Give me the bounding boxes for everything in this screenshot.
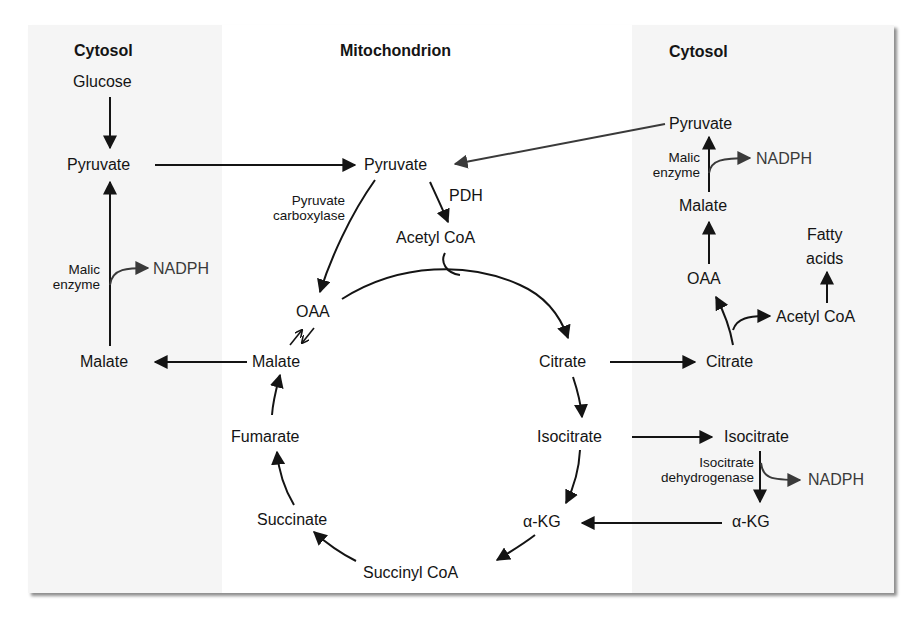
enzyme-label-line2: enzyme bbox=[36, 277, 100, 292]
arrow-isocitrate-akg bbox=[566, 450, 580, 503]
arrow-malic-enzyme-nadph-right bbox=[709, 158, 750, 173]
header-cytosol-right: Cytosol bbox=[669, 43, 728, 61]
fatty-acids-line1: Fatty bbox=[806, 223, 843, 247]
product-nadph-right-top: NADPH bbox=[756, 150, 812, 168]
metabolite-fumarate: Fumarate bbox=[231, 428, 299, 446]
metabolite-alpha-kg-cytosol: α-KG bbox=[732, 513, 770, 531]
metabolite-oaa-cytosol-right: OAA bbox=[687, 270, 721, 288]
arrow-akg-succinylcoa bbox=[497, 535, 535, 560]
metabolite-malate-cytosol-left: Malate bbox=[80, 353, 128, 371]
arrow-pdh bbox=[430, 182, 448, 222]
header-mitochondrion: Mitochondrion bbox=[340, 42, 451, 60]
metabolite-oaa-mito: OAA bbox=[296, 303, 330, 321]
arrow-fumarate-malate bbox=[272, 375, 280, 415]
arc-oaa-citrate bbox=[342, 269, 568, 338]
metabolite-isocitrate-cytosol: Isocitrate bbox=[724, 428, 789, 446]
arrow-citrate-oaa bbox=[716, 297, 733, 345]
metabolite-citrate-cytosol: Citrate bbox=[706, 353, 753, 371]
enzyme-label-line2: enzyme bbox=[630, 165, 700, 180]
metabolite-acetyl-coa-cytosol: Acetyl CoA bbox=[776, 308, 855, 326]
metabolite-succinyl-coa: Succinyl CoA bbox=[363, 564, 458, 582]
enzyme-label-line1: Isocitrate bbox=[650, 455, 754, 470]
metabolite-pyruvate-cytosol-right: Pyruvate bbox=[669, 115, 732, 133]
metabolite-citrate-mito: Citrate bbox=[539, 353, 586, 371]
enzyme-pdh: PDH bbox=[449, 187, 483, 205]
arrow-succinate-fumarate bbox=[277, 452, 294, 505]
metabolite-alpha-kg-mito: α-KG bbox=[523, 513, 561, 531]
product-fatty-acids: Fatty acids bbox=[806, 223, 843, 271]
metabolite-pyruvate-cytosol-left: Pyruvate bbox=[67, 156, 130, 174]
arrow-icdh-nadph bbox=[761, 463, 800, 480]
arrow-oaa-malate-fwd bbox=[290, 330, 302, 345]
product-nadph-left: NADPH bbox=[153, 260, 209, 278]
enzyme-label-line2: carboxylase bbox=[245, 208, 345, 223]
enzyme-label-line1: Malic bbox=[630, 150, 700, 165]
enzyme-malic-right: Malic enzyme bbox=[630, 150, 700, 180]
metabolite-glucose: Glucose bbox=[73, 73, 132, 91]
enzyme-label-line2: dehydrogenase bbox=[650, 470, 754, 485]
arrow-citrate-acetylcoa bbox=[733, 316, 770, 330]
header-cytosol-left: Cytosol bbox=[74, 42, 133, 60]
metabolite-pyruvate-mito: Pyruvate bbox=[364, 156, 427, 174]
metabolite-acetyl-coa-mito: Acetyl CoA bbox=[396, 229, 475, 247]
enzyme-malic-left: Malic enzyme bbox=[36, 262, 100, 292]
enzyme-pyruvate-carboxylase: Pyruvate carboxylase bbox=[245, 193, 345, 223]
metabolite-isocitrate-mito: Isocitrate bbox=[537, 428, 602, 446]
arrow-succinylcoa-succinate bbox=[314, 532, 356, 561]
metabolite-malate-mito: Malate bbox=[252, 353, 300, 371]
enzyme-label-line1: Malic bbox=[36, 262, 100, 277]
metabolite-succinate: Succinate bbox=[257, 511, 327, 529]
fatty-acids-line2: acids bbox=[806, 247, 843, 271]
metabolite-malate-cytosol-right: Malate bbox=[679, 197, 727, 215]
arrow-citrate-isocitrate bbox=[573, 377, 582, 417]
arrow-malic-enzyme-nadph-left bbox=[110, 268, 148, 285]
arrow-malate-oaa-rev bbox=[302, 328, 314, 343]
acetyl-coa-junction bbox=[443, 253, 460, 275]
enzyme-isocitrate-dehydrogenase: Isocitrate dehydrogenase bbox=[650, 455, 754, 485]
enzyme-label-line1: Pyruvate bbox=[245, 193, 345, 208]
product-nadph-right-bottom: NADPH bbox=[808, 471, 864, 489]
